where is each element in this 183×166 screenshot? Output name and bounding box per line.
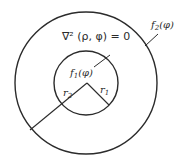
r2-radius-label: r2 [63,87,73,100]
f1-leader-line [94,55,110,67]
annulus-diagram: ∇² (ρ, φ) = 0 f1(φ) f2(φ) r1 r2 [0,0,183,166]
inner-circle [54,51,118,115]
f1-boundary-label: f1(φ) [69,67,93,80]
f2-boundary-label: f2(φ) [150,19,174,32]
radius-r2-line [30,83,87,130]
r1-radius-label: r1 [100,84,109,97]
f2-leader-line [145,34,158,46]
laplace-equation-label: ∇² (ρ, φ) = 0 [61,30,130,43]
